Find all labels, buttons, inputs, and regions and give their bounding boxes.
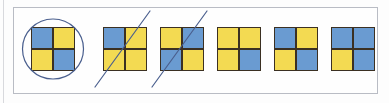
worksheet-image [0, 0, 389, 103]
square-5-cell-top-left [275, 28, 295, 48]
square-1-cell-top-right [54, 28, 74, 48]
square-5[interactable] [274, 27, 318, 71]
square-6-cell-bottom-right [354, 50, 374, 70]
square-6[interactable] [331, 27, 375, 71]
square-4-cell-top-right [240, 28, 260, 48]
square-4-cell-bottom-right [240, 50, 260, 70]
square-4[interactable] [217, 27, 261, 71]
square-3-cell-bottom-left [161, 50, 181, 70]
square-3[interactable] [160, 27, 204, 71]
square-4-grid [217, 27, 261, 71]
square-2-cell-bottom-left [104, 50, 124, 70]
page-edge-rule [3, 0, 4, 103]
square-5-cell-top-right [297, 28, 317, 48]
square-2-grid [103, 27, 147, 71]
square-6-grid [331, 27, 375, 71]
square-2-cell-top-left [104, 28, 124, 48]
square-5-cell-bottom-right [297, 50, 317, 70]
square-6-cell-top-left [332, 28, 352, 48]
square-2-cell-top-right [126, 28, 146, 48]
square-1-cell-bottom-left [32, 50, 52, 70]
square-3-cell-bottom-right [183, 50, 203, 70]
square-2-cell-bottom-right [126, 50, 146, 70]
square-5-cell-bottom-left [275, 50, 295, 70]
square-4-cell-top-left [218, 28, 238, 48]
square-4-cell-bottom-left [218, 50, 238, 70]
square-3-cell-top-left [161, 28, 181, 48]
square-1-grid [31, 27, 75, 71]
square-3-cell-top-right [183, 28, 203, 48]
square-5-grid [274, 27, 318, 71]
square-1[interactable] [31, 27, 75, 71]
square-3-grid [160, 27, 204, 71]
square-row [13, 7, 378, 94]
square-1-cell-bottom-right [54, 50, 74, 70]
square-1-cell-top-left [32, 28, 52, 48]
square-2[interactable] [103, 27, 147, 71]
square-6-cell-bottom-left [332, 50, 352, 70]
square-6-cell-top-right [354, 28, 374, 48]
